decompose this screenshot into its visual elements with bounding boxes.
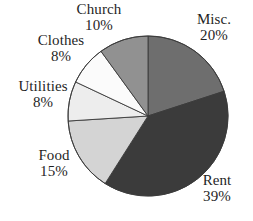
pie-label-misc: Misc. 20%: [178, 12, 250, 44]
pie-label-misc-name: Misc.: [178, 12, 250, 28]
pie-label-clothes-value: 8%: [22, 49, 100, 65]
pie-label-church: Church 10%: [60, 2, 138, 34]
pie-label-food-value: 15%: [18, 164, 90, 180]
pie-label-misc-value: 20%: [178, 28, 250, 44]
pie-chart-figure: Church 10% Misc. 20% Clothes 8% Utilitie…: [0, 0, 253, 221]
pie-label-church-name: Church: [60, 2, 138, 18]
pie-label-utilities-value: 8%: [2, 95, 84, 111]
pie-label-utilities: Utilities 8%: [2, 79, 84, 111]
pie-label-food-name: Food: [18, 148, 90, 164]
pie-label-rent-value: 39%: [184, 189, 250, 205]
pie-label-utilities-name: Utilities: [2, 79, 84, 95]
pie-label-clothes: Clothes 8%: [22, 33, 100, 65]
pie-label-food: Food 15%: [18, 148, 90, 180]
pie-label-clothes-name: Clothes: [22, 33, 100, 49]
pie-label-rent: Rent 39%: [184, 173, 250, 205]
pie-label-rent-name: Rent: [184, 173, 250, 189]
